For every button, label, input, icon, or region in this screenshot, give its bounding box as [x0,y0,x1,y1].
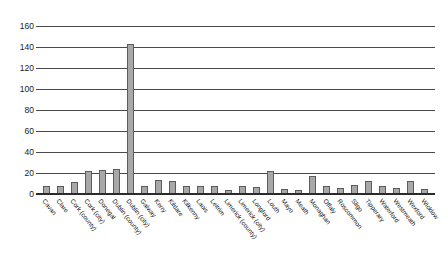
bar-slot [292,26,306,194]
x-label-slot: Meath [292,196,306,258]
x-label-slot: Dublin (county) [109,196,123,258]
y-tick-label: 160 [2,22,34,31]
x-label-slot: Westmeath [390,196,404,258]
bar-slot [95,26,109,194]
x-label-slot: Waterford [376,196,390,258]
x-label-slot: Cork (county) [67,196,81,258]
bar-slot [151,26,165,194]
x-label-slot: Leitrim [207,196,221,258]
y-tick-label: 0 [2,190,34,199]
bar-slot [264,26,278,194]
x-label-slot: Longford [249,196,263,258]
y-axis: 160140120100806040200 [0,26,34,194]
y-tick-label: 60 [2,127,34,136]
bar-slot [179,26,193,194]
bar-slot [81,26,95,194]
bar [309,176,316,194]
y-tick-label: 40 [2,148,34,157]
x-label-slot: Dublin (city) [123,196,137,258]
bar-slot [376,26,390,194]
bar [127,44,134,194]
bar-slot [221,26,235,194]
bar-slot [306,26,320,194]
x-label-slot: Cavan [39,196,53,258]
bar-slot [249,26,263,194]
bar-slot [123,26,137,194]
x-axis-line [36,193,435,195]
x-tick-label: Wicklow [420,198,439,220]
bar-slot [418,26,432,194]
bar [99,170,106,194]
bar-series [36,26,435,194]
x-label-slot: Donegal [95,196,109,258]
bar-slot [67,26,81,194]
bar-slot [137,26,151,194]
x-label-slot: Kildare [165,196,179,258]
bar-slot [39,26,53,194]
x-label-slot: Kilkenny [179,196,193,258]
bar-chart: 160140120100806040200 CavanClareCork (co… [0,0,443,259]
x-label-slot: Clare [53,196,67,258]
x-label-slot: Kerry [151,196,165,258]
x-label-slot: Limerick (city) [235,196,249,258]
bar-slot [207,26,221,194]
bar-slot [235,26,249,194]
x-label-slot: Cork (city) [81,196,95,258]
bar-slot [362,26,376,194]
x-label-slot: Offaly [320,196,334,258]
x-label-slot: Mayo [278,196,292,258]
x-label-slot: Galway [137,196,151,258]
bar-slot [193,26,207,194]
y-tick-label: 140 [2,43,34,52]
x-axis-labels: CavanClareCork (county)Cork (city)Donega… [36,196,435,258]
y-tick-label: 20 [2,169,34,178]
x-label-slot: Tipperary [362,196,376,258]
bar [113,169,120,194]
y-tick-label: 80 [2,106,34,115]
x-label-slot: Louth [264,196,278,258]
x-label-slot: Wicklow [418,196,432,258]
bar-slot [109,26,123,194]
x-label-slot: Roscommon [334,196,348,258]
bar-slot [390,26,404,194]
y-tick-label: 100 [2,85,34,94]
bar-slot [278,26,292,194]
bar [155,180,162,194]
x-label-slot: Limerick (county) [221,196,235,258]
bar [267,171,274,194]
x-label-slot: Laois [193,196,207,258]
bar-slot [348,26,362,194]
bar-slot [165,26,179,194]
bar-slot [53,26,67,194]
bar [85,171,92,194]
bar-slot [320,26,334,194]
x-label-slot: Wexford [404,196,418,258]
bar-slot [334,26,348,194]
y-tick-label: 120 [2,64,34,73]
plot-area [36,26,435,194]
bar-slot [404,26,418,194]
x-label-slot: Monaghan [306,196,320,258]
x-label-slot: Sligo [348,196,362,258]
